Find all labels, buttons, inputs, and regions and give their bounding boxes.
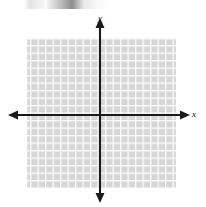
x-axis-left-arrowhead (8, 111, 18, 120)
coordinate-plane-canvas (0, 0, 206, 207)
x-axis-right-arrowhead (180, 111, 190, 120)
grid-left-line (26, 38, 27, 188)
y-axis-label: y (98, 14, 102, 23)
x-axis-label: x (192, 110, 196, 119)
y-axis-bottom-arrowhead (96, 193, 105, 203)
coordinate-plane-figure: y x (0, 0, 206, 207)
